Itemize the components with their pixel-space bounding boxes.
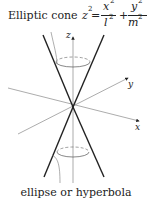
z-axis-label: z <box>66 30 71 40</box>
cone-line-upper-left <box>43 35 73 107</box>
caption: ellipse or hyperbola <box>0 186 152 199</box>
axes <box>8 37 139 183</box>
leader-upper <box>51 32 57 64</box>
y-axis-label: y <box>128 79 133 89</box>
leader-lower <box>52 155 60 183</box>
x-axis-label: x <box>135 122 140 132</box>
cone-diagram <box>0 0 152 207</box>
cone-line-lower-left <box>44 107 73 177</box>
cone-lines <box>43 35 104 177</box>
cone-line-lower-right <box>73 107 104 177</box>
cone-line-upper-right <box>73 35 104 107</box>
